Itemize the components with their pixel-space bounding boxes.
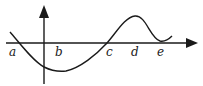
- label-a: a: [9, 45, 16, 59]
- function-graph: a b c d e: [0, 0, 203, 86]
- label-b: b: [55, 45, 63, 59]
- y-axis-arrow-icon: [39, 5, 49, 18]
- label-d: d: [131, 45, 139, 59]
- label-c: c: [106, 45, 113, 59]
- label-e: e: [157, 45, 164, 59]
- x-axis-arrow-icon: [186, 38, 198, 48]
